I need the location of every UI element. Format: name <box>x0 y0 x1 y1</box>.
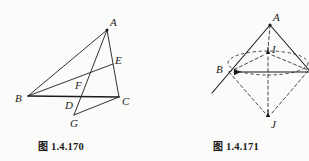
point-label-J-fig171: J <box>271 119 276 130</box>
figure-caption-1-4-171: 图 1.4.171 <box>213 138 259 153</box>
segment-right-J <box>272 71 308 113</box>
point-label-I-fig171: I <box>272 44 276 55</box>
caption-number-171: 1.4.171 <box>226 141 259 152</box>
segment-A-I <box>268 25 270 50</box>
vertex-dot-A-fig171 <box>268 23 271 26</box>
point-label-B-fig171: B <box>216 64 223 75</box>
figure-1-4-171-drawing <box>0 0 309 161</box>
segment-A-B-extended <box>212 25 270 93</box>
point-label-A-fig171: A <box>273 12 280 23</box>
segment-B-J <box>229 72 265 113</box>
figure-sheet: A B C D E F G 图 1.4.170 <box>0 0 309 161</box>
caption-cjk-label-171: 图 <box>213 141 223 152</box>
segment-B-I <box>229 55 264 72</box>
